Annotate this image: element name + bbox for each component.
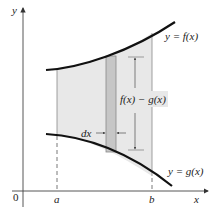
origin-label: 0 [13,191,19,203]
curve-g-label: y = g(x) [167,165,204,178]
y-axis-label: y [11,4,17,16]
dx-label: dx [81,127,92,139]
tick-label-a: a [54,193,60,205]
area-between-curves-diagram: f(x) − g(x) dx y = f(x) y = g(x) y x 0 a… [0,0,221,217]
curve-f-label: y = f(x) [164,30,198,43]
height-label: f(x) − g(x) [120,93,166,106]
tick-label-b: b [149,193,155,205]
x-axis-label: x [193,193,199,205]
strip-rectangle [106,56,116,152]
